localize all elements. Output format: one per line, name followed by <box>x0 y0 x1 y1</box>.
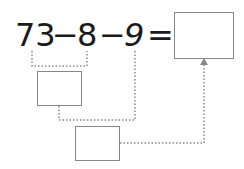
answer-box-result[interactable] <box>174 12 234 59</box>
answer-box-step-2[interactable] <box>75 126 120 161</box>
bracket-73-8 <box>32 51 87 66</box>
arrow-up-icon <box>200 58 208 65</box>
answer-box-step-1[interactable] <box>37 71 82 106</box>
connector-box2-to-result <box>120 64 204 143</box>
